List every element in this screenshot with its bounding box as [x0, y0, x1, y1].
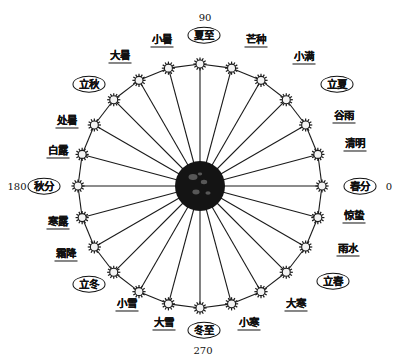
sun-node-disc: [228, 300, 236, 308]
term-label-liqiu: 立秋: [73, 76, 106, 93]
sun-body: [175, 161, 225, 211]
sun-node-disc: [314, 214, 322, 222]
term-label-text: 冬至: [188, 322, 221, 339]
sun-node-icon: [311, 148, 324, 161]
ring-chord: [286, 100, 305, 125]
sun-node-disc: [257, 76, 265, 84]
term-label-text: 大寒: [285, 298, 308, 311]
term-label-text: 春分: [344, 178, 377, 195]
solar-terms-diagram: 春分清明谷雨立夏小满芒种夏至小暑大暑立秋处暑白露秋分寒露霜降立冬小雪大雪冬至小寒…: [0, 0, 398, 360]
sun-node-disc: [90, 243, 98, 251]
ring-chord: [139, 68, 168, 80]
ring-chord: [232, 68, 261, 80]
term-label-bailu: 白露: [47, 145, 70, 158]
sun-surface-mark: [198, 173, 202, 176]
ring-chord: [306, 218, 318, 247]
winter-solstice-angle: 270: [193, 345, 212, 356]
ring-chord: [139, 292, 168, 304]
sun-node-disc: [196, 60, 204, 68]
ring-chord: [306, 125, 318, 154]
term-label-lidong: 立冬: [73, 276, 106, 293]
sun-node-icon: [88, 240, 101, 253]
term-label-text: 小寒: [238, 317, 261, 330]
term-label-text: 立夏: [321, 76, 354, 93]
ring-chord: [94, 247, 113, 272]
sun-node-icon: [193, 301, 206, 314]
term-label-text: 小暑: [151, 34, 174, 47]
term-label-xiaohan: 小寒: [238, 317, 261, 330]
autumn-equinox-angle: 180: [7, 181, 26, 192]
term-label-text: 谷雨: [333, 110, 356, 123]
sun-node-icon: [315, 179, 328, 192]
sun-node-icon: [132, 74, 145, 87]
term-label-xiazhi: 夏至: [188, 27, 221, 44]
term-label-yushui: 雨水: [337, 243, 360, 256]
term-label-dahan: 大寒: [285, 298, 308, 311]
term-label-chushu: 处暑: [56, 115, 79, 128]
sun-node-disc: [164, 64, 172, 72]
term-label-text: 芒种: [245, 34, 268, 47]
term-label-text: 大雪: [153, 317, 176, 330]
sun-surface-mark: [201, 180, 207, 184]
sun-node-icon: [76, 148, 89, 161]
sun-node-icon: [162, 297, 175, 310]
ring-chord: [114, 80, 139, 99]
term-label-text: 惊蛰: [343, 210, 366, 223]
term-label-text: 大暑: [109, 50, 132, 63]
term-label-qiufen: 秋分: [28, 178, 61, 195]
term-label-text: 小满: [293, 51, 316, 64]
sun-surface-mark: [205, 191, 210, 195]
sun-node-icon: [162, 62, 175, 75]
term-label-chunfen: 春分: [344, 178, 377, 195]
sun-node-icon: [76, 211, 89, 224]
term-label-text: 处暑: [56, 115, 79, 128]
term-label-guyu: 谷雨: [333, 110, 356, 123]
sun-node-disc: [257, 288, 265, 296]
sun-node-icon: [299, 240, 312, 253]
sun-node-icon: [311, 211, 324, 224]
sun-node-icon: [132, 285, 145, 298]
sun-surface-mark: [189, 174, 198, 180]
term-label-xiaoman: 小满: [293, 51, 316, 64]
sun-node-disc: [282, 268, 290, 276]
ring-chord: [82, 218, 94, 247]
term-label-jingzhe: 惊蛰: [343, 210, 366, 223]
sun-node-disc: [78, 150, 86, 158]
sun-node-disc: [135, 288, 143, 296]
ring-chord: [82, 125, 94, 154]
sun-node-disc: [135, 76, 143, 84]
sun-node-disc: [110, 268, 118, 276]
sun-node-disc: [314, 150, 322, 158]
term-label-lichun: 立春: [317, 273, 350, 290]
sun-node-icon: [71, 179, 84, 192]
term-label-text: 雨水: [337, 243, 360, 256]
term-label-text: 清明: [344, 138, 367, 151]
term-label-text: 霜降: [55, 248, 78, 261]
term-label-text: 小雪: [116, 298, 139, 311]
ring-chord: [94, 100, 113, 125]
term-label-text: 寒露: [47, 216, 70, 229]
term-label-text: 立冬: [73, 276, 106, 293]
sun-node-disc: [302, 121, 310, 129]
sun-node-icon: [254, 285, 267, 298]
sun-node-disc: [282, 96, 290, 104]
term-label-qingming: 清明: [344, 138, 367, 151]
term-label-daxue: 大雪: [153, 317, 176, 330]
sun-node-disc: [110, 96, 118, 104]
sun-surface-mark: [192, 190, 199, 195]
ring-chord: [261, 80, 286, 99]
term-label-text: 立秋: [73, 76, 106, 93]
term-label-text: 夏至: [188, 27, 221, 44]
spring-equinox-angle: 0: [386, 181, 392, 192]
sun-node-disc: [90, 121, 98, 129]
sun-node-disc: [78, 214, 86, 222]
term-label-text: 秋分: [28, 178, 61, 195]
sun-node-icon: [225, 297, 238, 310]
sun-node-icon: [88, 118, 101, 131]
term-label-mangzhong: 芒种: [245, 34, 268, 47]
sun-node-icon: [254, 74, 267, 87]
sun-node-disc: [164, 300, 172, 308]
sun-node-disc: [302, 243, 310, 251]
term-label-lixia: 立夏: [321, 76, 354, 93]
term-label-dongzhi: 冬至: [188, 322, 221, 339]
